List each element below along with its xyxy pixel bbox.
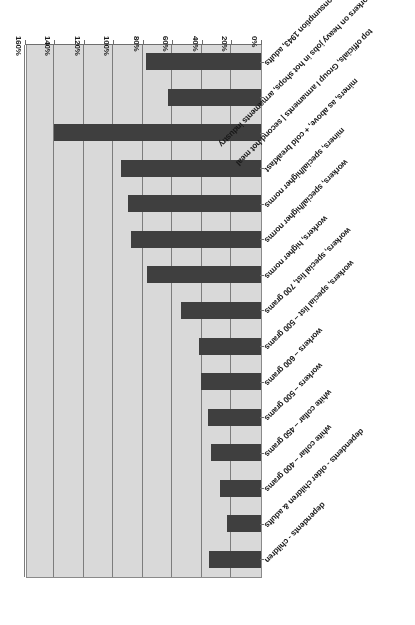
bar	[227, 515, 261, 532]
category-axis: dependents - childrendependents - older …	[262, 0, 415, 625]
axis-tick	[84, 40, 85, 45]
bar-row	[27, 364, 261, 400]
bar	[199, 338, 261, 355]
axis-tick	[173, 40, 174, 45]
axis-tick-label: 80%	[132, 36, 141, 51]
bar-row	[27, 506, 261, 542]
axis-tick	[202, 40, 203, 45]
bar-row	[27, 399, 261, 435]
axis-tick	[25, 40, 26, 45]
bar	[146, 53, 261, 70]
bar-row	[27, 151, 261, 187]
bar-row	[27, 222, 261, 258]
bar-chart-figure: 0%20%40%60%80%100%120%140%160% dependent…	[0, 0, 415, 625]
bar	[209, 551, 261, 568]
bar	[208, 409, 261, 426]
bar-row	[27, 186, 261, 222]
value-axis: 0%20%40%60%80%100%120%140%160%	[26, 0, 262, 45]
axis-tick	[143, 40, 144, 45]
bar	[201, 373, 261, 390]
bar-row	[27, 257, 261, 293]
bar	[128, 195, 261, 212]
axis-tick-label: 0%	[250, 36, 259, 47]
bar-row	[27, 470, 261, 506]
gridline	[24, 45, 25, 577]
bar-row	[27, 328, 261, 364]
bar	[147, 266, 261, 283]
axis-tick-label: 40%	[191, 36, 200, 51]
bar	[211, 444, 261, 461]
rotated-figure-wrapper: 0%20%40%60%80%100%120%140%160% dependent…	[0, 0, 415, 625]
axis-tick	[114, 40, 115, 45]
axis-tick-label: 100%	[103, 36, 112, 56]
plot-area	[26, 45, 262, 578]
bar-row	[27, 293, 261, 329]
axis-tick	[232, 40, 233, 45]
bar	[131, 231, 261, 248]
axis-tick-label: 160%	[14, 36, 23, 56]
bar	[181, 302, 261, 319]
bar	[220, 480, 261, 497]
bar-row	[27, 80, 261, 116]
axis-tick-label: 120%	[73, 36, 82, 56]
axis-tick-label: 140%	[44, 36, 53, 56]
bar-row	[27, 541, 261, 577]
axis-tick-label: 60%	[162, 36, 171, 51]
bar-row	[27, 435, 261, 471]
bar	[168, 89, 261, 106]
axis-tick-label: 20%	[221, 36, 230, 51]
axis-tick	[55, 40, 56, 45]
